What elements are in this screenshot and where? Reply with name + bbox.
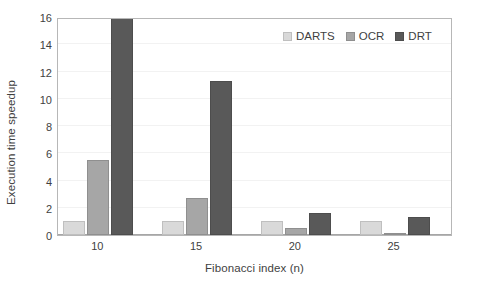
- x-tick-label: 15: [190, 241, 202, 252]
- legend-item-drt: DRT: [395, 31, 431, 43]
- bar-darts-25: [360, 221, 382, 235]
- bar-darts-10: [63, 221, 85, 235]
- y-tick-label: 4: [22, 176, 52, 187]
- y-tick-label: 14: [22, 40, 52, 51]
- bar-group: [63, 19, 133, 235]
- x-tick-label: 10: [91, 241, 103, 252]
- bar-drt-20: [309, 213, 331, 235]
- legend-label: OCR: [359, 31, 385, 43]
- bar-darts-20: [261, 221, 283, 235]
- legend-swatch-icon: [395, 32, 404, 41]
- legend-swatch-icon: [346, 32, 355, 41]
- bar-darts-15: [162, 221, 184, 235]
- bars-layer: [58, 19, 451, 235]
- y-tick-label: 16: [22, 13, 52, 24]
- bar-ocr-10: [87, 160, 109, 235]
- y-tick-label: 10: [22, 94, 52, 105]
- chart-legend: DARTSOCRDRT: [283, 31, 432, 43]
- y-tick-label: 12: [22, 67, 52, 78]
- x-axis-tick-labels: 10152025: [57, 241, 452, 257]
- legend-item-ocr: OCR: [346, 31, 385, 43]
- y-tick-label: 2: [22, 203, 52, 214]
- bar-group: [360, 19, 430, 235]
- bar-drt-10: [111, 18, 133, 235]
- legend-item-darts: DARTS: [283, 31, 335, 43]
- x-axis-title: Fibonacci index (n): [57, 262, 452, 274]
- bar-ocr-25: [384, 233, 406, 235]
- bar-group: [261, 19, 331, 235]
- legend-swatch-icon: [283, 32, 292, 41]
- bar-drt-25: [408, 217, 430, 235]
- bar-drt-15: [210, 81, 232, 235]
- y-axis-title: Execution time speedup: [0, 0, 22, 285]
- plot-area: [57, 18, 452, 236]
- legend-label: DRT: [408, 31, 431, 43]
- bar-group: [162, 19, 232, 235]
- y-tick-label: 0: [22, 231, 52, 242]
- legend-label: DARTS: [296, 31, 335, 43]
- x-tick-label: 20: [289, 241, 301, 252]
- bar-chart: Execution time speedup 0246810121416 DAR…: [0, 0, 477, 285]
- y-tick-label: 8: [22, 122, 52, 133]
- y-axis-tick-labels: 0246810121416: [22, 18, 52, 236]
- bar-ocr-15: [186, 198, 208, 235]
- y-tick-label: 6: [22, 149, 52, 160]
- bar-ocr-20: [285, 228, 307, 235]
- x-tick-label: 25: [388, 241, 400, 252]
